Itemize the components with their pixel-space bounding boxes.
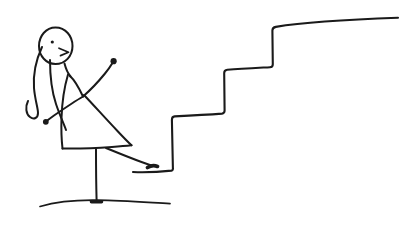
staircase <box>133 18 398 172</box>
drawing-canvas: Stick figure climbing stairs A simple ha… <box>0 0 416 229</box>
ground-line <box>40 200 170 206</box>
head-outline <box>39 28 73 65</box>
lowered-hand-dot <box>43 119 49 125</box>
raised-arm <box>83 63 112 96</box>
lowered-arm <box>47 97 83 121</box>
nose-mouth-line <box>59 48 69 55</box>
ground <box>40 200 170 206</box>
dress-hem <box>63 145 132 148</box>
raised-fist-dot <box>111 58 117 64</box>
back-leg <box>96 149 97 201</box>
front-foot <box>148 166 158 168</box>
dress-left-seam <box>61 75 68 149</box>
stick-figure-woman <box>26 28 157 202</box>
shoulder-line <box>70 76 83 97</box>
dress-right-seam <box>84 95 132 145</box>
stick-figure-stairs-illustration: Stick figure climbing stairs A simple ha… <box>0 0 416 229</box>
stair-profile-path <box>133 18 398 172</box>
hair-left-strand <box>26 47 42 118</box>
eye-dot <box>51 40 54 43</box>
front-leg <box>106 148 151 165</box>
